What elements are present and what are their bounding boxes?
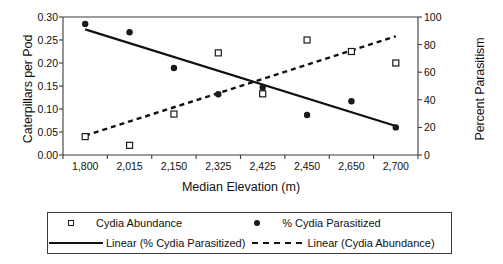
legend-label: Linear (Cydia Abundance) (305, 237, 434, 249)
filled-circle-icon (234, 220, 280, 226)
trendline-parasitized (85, 29, 396, 126)
chart-legend: Cydia Abundance % Cydia Parasitized Line… (47, 212, 452, 254)
chart-figure: Caterpillars per Pod Percent Parasitism … (0, 0, 503, 264)
legend-item-cydia-abundance: Cydia Abundance (48, 217, 182, 229)
legend-item-linear-abundance: Linear (Cydia Abundance) (249, 237, 434, 249)
data-points-parasitized (82, 21, 399, 131)
legend-item-percent-parasitized: % Cydia Parasitized (234, 217, 380, 229)
solid-line-icon (48, 242, 104, 244)
legend-label: Linear (% Cydia Parasitized) (104, 237, 245, 249)
open-square-icon (48, 220, 94, 226)
legend-row-trendlines: Linear (% Cydia Parasitized) Linear (Cyd… (48, 233, 451, 253)
legend-item-linear-parasitized: Linear (% Cydia Parasitized) (48, 237, 245, 249)
data-points-abundance (82, 37, 399, 148)
legend-label: % Cydia Parasitized (280, 217, 380, 229)
legend-row-markers: Cydia Abundance % Cydia Parasitized (48, 213, 451, 233)
dashed-line-icon (249, 242, 305, 244)
legend-label: Cydia Abundance (94, 217, 182, 229)
